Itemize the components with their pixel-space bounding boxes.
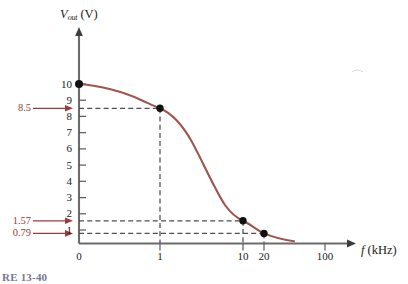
y-tick-label-4: 4 [52,176,72,187]
y-tick-label-10: 10 [52,79,72,90]
data-point-1khz [156,105,163,112]
annotation-label-0p79: 0.79 [0,228,31,239]
x-tick-label-20: 20 [255,251,273,262]
y-tick-label-3: 3 [52,192,72,203]
x-axis-arrowhead [347,240,356,248]
data-point-markers [75,80,268,237]
annotation-label-1p57: 1.57 [0,216,31,227]
data-point-0khz [75,80,83,88]
y-axis-title-unit: (V) [80,7,97,21]
y-tick-marks [79,84,86,230]
x-tick-label-10: 10 [234,251,252,262]
y-axis-title: Vout (V) [60,8,98,22]
data-point-10khz [239,217,246,224]
x-tick-label-0: 0 [73,251,85,262]
response-curve [79,84,294,241]
y-axis-arrowhead [75,27,83,36]
y-axis-title-var: V [60,7,68,21]
figure-caption: RE 13-40 [2,271,47,283]
y-axis-title-subscript: out [68,13,78,22]
y-tick-label-1: 1 [52,225,72,236]
axes-group [75,27,356,247]
x-axis-title: f (kHz) [361,244,397,257]
x-tick-label-1: 1 [154,251,166,262]
y-tick-label-8: 8 [52,111,72,122]
data-point-20khz [260,230,267,237]
chart-canvas [0,0,408,284]
y-tick-label-7: 7 [52,127,72,138]
annotation-label-8p5: 8.5 [0,103,31,114]
y-tick-label-5: 5 [52,160,72,171]
y-tick-label-6: 6 [52,143,72,154]
x-axis-title-unit: (kHz) [368,243,397,257]
dashed-guides [79,108,264,243]
x-tick-label-100: 100 [313,251,337,262]
scan-artifact [352,70,363,72]
y-tick-label-2: 2 [52,208,72,219]
figure-root: Vout (V) f (kHz) 10 9 8 7 6 5 4 3 2 1 0 … [0,0,408,284]
y-tick-label-9: 9 [52,95,72,106]
